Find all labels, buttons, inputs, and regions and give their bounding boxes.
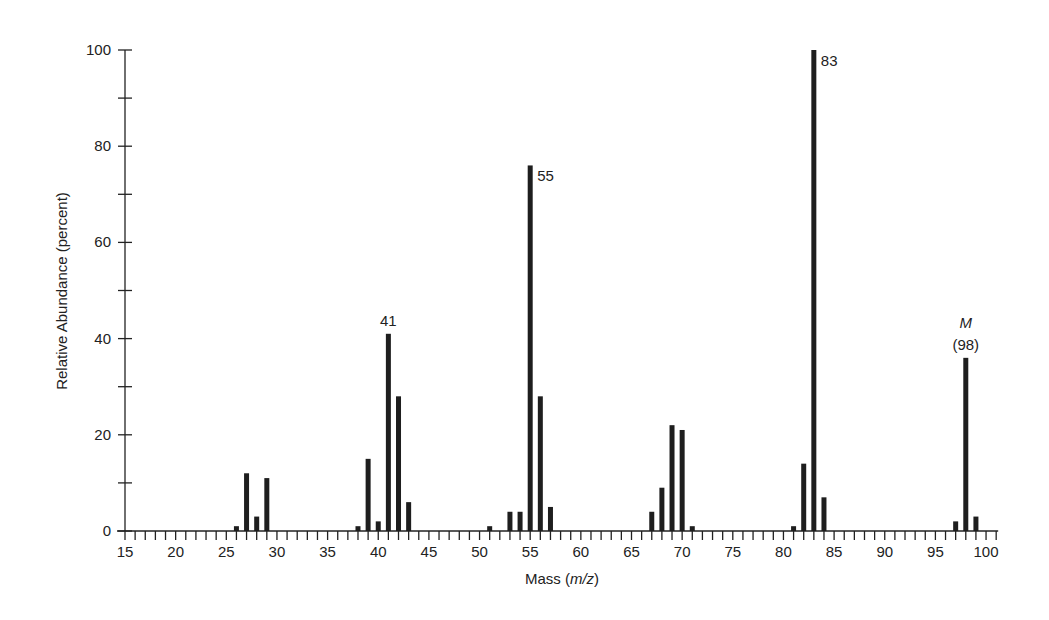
- x-tick-label: 90: [876, 543, 893, 560]
- x-axis-title-italic: m/z: [570, 570, 595, 587]
- peak-bar-51: [487, 526, 492, 531]
- peak-label-98: (98): [952, 336, 979, 353]
- peak-bar-71: [690, 526, 695, 531]
- peak-bar-98: [963, 358, 968, 531]
- peak-bar-29: [264, 478, 269, 531]
- y-tick-label: 100: [86, 41, 111, 58]
- peak-bar-67: [649, 512, 654, 531]
- peak-bar-99: [973, 517, 978, 531]
- x-tick-label: 75: [724, 543, 741, 560]
- peak-bar-43: [406, 502, 411, 531]
- peak-bar-84: [821, 497, 826, 531]
- y-tick-label: 40: [94, 330, 111, 347]
- x-axis-title: Mass (m/z): [525, 570, 599, 587]
- y-tick-label: 0: [103, 522, 111, 539]
- peak-label-83: 83: [821, 52, 838, 69]
- x-tick-label: 55: [522, 543, 539, 560]
- peak-bar-38: [355, 526, 360, 531]
- peak-label-41: 41: [380, 312, 397, 329]
- peak-bar-69: [670, 425, 675, 531]
- peak-bar-56: [538, 396, 543, 531]
- peak-bar-55: [528, 165, 533, 531]
- x-tick-label: 50: [471, 543, 488, 560]
- peak-bar-97: [953, 521, 958, 531]
- x-tick-label: 80: [775, 543, 792, 560]
- x-tick-label: 45: [421, 543, 438, 560]
- x-axis: 1520253035404550556065707580859095100: [117, 531, 999, 560]
- bars: [234, 50, 978, 531]
- x-tick-label: 15: [117, 543, 134, 560]
- x-tick-label: 25: [218, 543, 235, 560]
- y-tick-label: 60: [94, 233, 111, 250]
- peak-bar-40: [376, 521, 381, 531]
- molecular-ion-label: M: [960, 314, 973, 331]
- x-tick-label: 70: [674, 543, 691, 560]
- peak-bar-70: [680, 430, 685, 531]
- peak-bar-42: [396, 396, 401, 531]
- peak-bar-41: [386, 334, 391, 531]
- x-tick-label: 20: [167, 543, 184, 560]
- x-tick-label: 30: [269, 543, 286, 560]
- x-axis-title-suffix: ): [594, 570, 599, 587]
- mass-spectrum-chart: 020406080100 152025303540455055606570758…: [0, 0, 1049, 620]
- peak-bar-39: [366, 459, 371, 531]
- peak-annotations: 415583M(98): [380, 52, 979, 353]
- y-axis-title: Relative Abundance (percent): [53, 192, 70, 390]
- y-tick-label: 20: [94, 426, 111, 443]
- x-axis-title-prefix: Mass (: [525, 570, 570, 587]
- peak-bar-53: [507, 512, 512, 531]
- peak-bar-82: [801, 464, 806, 531]
- y-axis: 020406080100: [86, 41, 132, 539]
- x-tick-label: 95: [927, 543, 944, 560]
- peak-label-55: 55: [537, 167, 554, 184]
- peak-bar-81: [791, 526, 796, 531]
- x-tick-label: 40: [370, 543, 387, 560]
- peak-bar-26: [234, 526, 239, 531]
- peak-bar-68: [659, 488, 664, 531]
- x-tick-label: 85: [826, 543, 843, 560]
- y-tick-label: 80: [94, 137, 111, 154]
- peak-bar-83: [811, 50, 816, 531]
- x-tick-label: 60: [573, 543, 590, 560]
- x-tick-label: 100: [974, 543, 999, 560]
- x-tick-label: 65: [623, 543, 640, 560]
- peak-bar-27: [244, 473, 249, 531]
- peak-bar-57: [548, 507, 553, 531]
- peak-bar-54: [518, 512, 523, 531]
- x-tick-label: 35: [319, 543, 336, 560]
- peak-bar-28: [254, 517, 259, 531]
